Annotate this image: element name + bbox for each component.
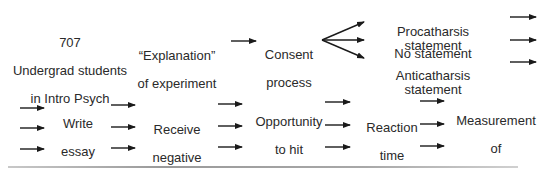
arrow-fan-down-icon [322, 40, 364, 58]
bottom-divider [8, 166, 518, 168]
flow-arrows [0, 0, 555, 169]
arrow-fan-up-icon [322, 22, 364, 40]
